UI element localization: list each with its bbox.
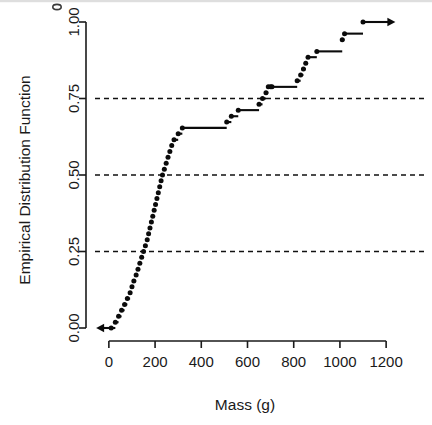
data-point — [143, 243, 148, 248]
data-point — [260, 96, 265, 101]
data-point — [263, 90, 268, 95]
data-point — [146, 231, 151, 236]
ecdf-plot-root: 020040060080010001200 0.000.250.500.751.… — [0, 0, 432, 425]
x-tick-label: 1200 — [369, 353, 402, 370]
data-point — [298, 72, 303, 77]
x-tick-label: 400 — [189, 353, 214, 370]
data-point — [361, 20, 366, 25]
data-point — [139, 255, 144, 260]
x-tick-label: 800 — [281, 353, 306, 370]
data-point — [119, 308, 124, 313]
x-tick-label: 0 — [105, 353, 113, 370]
data-point — [145, 237, 150, 242]
data-point — [229, 114, 234, 119]
data-point — [314, 49, 319, 54]
data-point — [149, 220, 154, 225]
data-point — [156, 190, 161, 195]
y-tick-label: 1.00 — [65, 7, 82, 36]
data-point — [172, 137, 177, 142]
data-point — [109, 326, 114, 331]
x-tick-label: 1000 — [323, 353, 356, 370]
data-point — [169, 143, 174, 148]
y-axis-title: Empirical Distribution Function — [16, 75, 33, 284]
y-tick-label: 0.50 — [65, 160, 82, 189]
data-point — [301, 67, 306, 72]
data-point — [176, 131, 181, 136]
data-point — [306, 55, 311, 60]
data-point — [128, 290, 133, 295]
data-point — [129, 284, 134, 289]
x-tick-label: 600 — [235, 353, 260, 370]
y-tick-label: 0.25 — [65, 237, 82, 266]
data-point — [131, 278, 136, 283]
data-point — [116, 314, 121, 319]
x-tick-label: 200 — [143, 353, 168, 370]
data-point — [159, 178, 164, 183]
data-point — [134, 273, 139, 278]
data-point — [162, 167, 167, 172]
data-point — [342, 31, 347, 36]
data-point — [236, 108, 241, 113]
data-point — [257, 102, 262, 107]
data-point — [160, 173, 165, 178]
data-point — [295, 78, 300, 83]
data-point — [147, 225, 152, 230]
data-point — [153, 202, 158, 207]
data-point — [303, 61, 308, 66]
y-tick-label: 0.75 — [65, 84, 82, 113]
y-tick-label: 0.00 — [65, 313, 82, 342]
data-point — [122, 302, 127, 307]
x-axis-title: Mass (g) — [215, 396, 275, 413]
data-point — [269, 84, 274, 89]
data-point — [125, 296, 130, 301]
data-point — [152, 208, 157, 213]
data-point — [150, 214, 155, 219]
data-point — [166, 155, 171, 160]
data-point — [224, 120, 229, 125]
data-point — [135, 267, 140, 272]
data-point — [137, 261, 142, 266]
plot-background — [0, 0, 432, 425]
data-point — [157, 184, 162, 189]
data-point — [164, 161, 169, 166]
data-point — [167, 149, 172, 154]
data-point — [141, 249, 146, 254]
data-point — [340, 37, 345, 42]
data-point — [154, 196, 159, 201]
data-point — [113, 320, 118, 325]
data-point — [180, 125, 185, 130]
ecdf-chart-svg: 020040060080010001200 0.000.250.500.751.… — [0, 0, 432, 425]
